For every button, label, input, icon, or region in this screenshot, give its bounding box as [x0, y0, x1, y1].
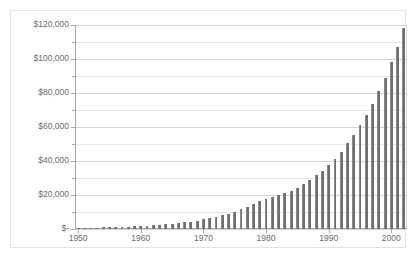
bar	[189, 222, 192, 229]
bar	[114, 227, 117, 229]
bar	[396, 47, 399, 229]
bar	[202, 219, 205, 229]
bar	[240, 209, 243, 229]
bar	[233, 212, 236, 229]
x-axis-tick-label: 1970	[194, 233, 213, 243]
y-axis-tick-label: $80,000	[38, 88, 69, 97]
bar	[121, 227, 124, 229]
bar	[127, 227, 130, 229]
bar	[359, 125, 362, 229]
bar	[252, 204, 255, 229]
y-axis-tick-label: $120,000	[34, 20, 69, 29]
gridline	[75, 229, 407, 230]
bar	[340, 152, 343, 229]
bar-series	[75, 25, 407, 229]
y-axis-labels: $-$20,000$40,000$60,000$80,000$100,000$1…	[11, 25, 69, 229]
bar	[89, 228, 92, 229]
bar	[152, 225, 155, 229]
bar	[158, 225, 161, 229]
bar	[164, 224, 167, 229]
bar	[265, 199, 268, 229]
bar	[302, 184, 305, 229]
bar	[308, 180, 311, 229]
bar	[133, 226, 136, 229]
y-axis-tick-label: $-	[61, 224, 69, 233]
bar	[352, 135, 355, 229]
bar	[290, 191, 293, 229]
y-axis-tick	[71, 229, 75, 230]
y-axis-tick-label: $60,000	[38, 122, 69, 131]
bar	[77, 228, 80, 229]
bar	[283, 193, 286, 229]
x-axis-tick-label: 1990	[319, 233, 338, 243]
x-axis-labels: 195019601970198019902000	[75, 233, 407, 247]
bar	[177, 223, 180, 229]
bar	[258, 201, 261, 229]
bar	[321, 171, 324, 229]
bar	[227, 214, 230, 229]
bar	[377, 91, 380, 229]
bar	[384, 78, 387, 229]
bar	[277, 195, 280, 229]
bar	[346, 143, 349, 229]
bar	[208, 218, 211, 229]
x-axis-tick-label: 1960	[131, 233, 150, 243]
bar	[171, 224, 174, 229]
bar	[296, 188, 299, 229]
bar	[108, 227, 111, 229]
bar	[402, 28, 405, 229]
bar	[315, 175, 318, 229]
bar	[95, 228, 98, 229]
y-axis-tick-label: $20,000	[38, 190, 69, 199]
x-axis-tick-label: 1980	[257, 233, 276, 243]
bar	[246, 207, 249, 229]
x-axis-tick-label: 1950	[69, 233, 88, 243]
bar	[102, 227, 105, 229]
y-axis-tick-label: $40,000	[38, 156, 69, 165]
bar	[215, 217, 218, 229]
bar	[390, 62, 393, 229]
bar	[365, 115, 368, 229]
bar	[271, 197, 274, 229]
x-axis-tick-label: 2000	[382, 233, 401, 243]
bar	[334, 159, 337, 229]
y-axis-tick-label: $100,000	[34, 54, 69, 63]
plot-area	[75, 25, 407, 229]
bar	[146, 226, 149, 229]
bar	[196, 221, 199, 230]
bar	[327, 165, 330, 229]
bar	[221, 215, 224, 229]
bar	[83, 228, 86, 229]
bar	[183, 222, 186, 229]
bar	[139, 226, 142, 229]
chart-frame: $-$20,000$40,000$60,000$80,000$100,000$1…	[10, 10, 406, 248]
bar	[371, 104, 374, 229]
